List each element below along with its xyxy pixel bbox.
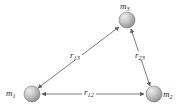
separation-label-r23-base: r bbox=[135, 50, 139, 60]
separation-label-r13-base: r bbox=[70, 50, 74, 60]
separation-label-r13: r13 bbox=[68, 51, 82, 60]
mass-label-m2-base: m bbox=[163, 89, 170, 99]
mass-sphere-m1 bbox=[24, 86, 40, 102]
mass-label-m3-base: m bbox=[120, 1, 127, 11]
mass-label-m2-sub: 2 bbox=[170, 93, 173, 100]
mass-label-m1: m1 bbox=[6, 89, 16, 98]
mass-sphere-m2 bbox=[146, 86, 162, 102]
mass-sphere-m3 bbox=[119, 12, 135, 28]
mass-label-m3-sub: 3 bbox=[127, 5, 130, 12]
separation-label-r12-base: r bbox=[84, 87, 88, 97]
mass-label-m1-base: m bbox=[6, 88, 13, 98]
mass-label-m2: m2 bbox=[163, 90, 173, 99]
separation-label-r23: r23 bbox=[133, 51, 147, 60]
mass-label-m1-sub: 1 bbox=[13, 92, 16, 99]
separation-label-r23-sub: 23 bbox=[139, 54, 145, 61]
mass-label-m3: m3 bbox=[120, 2, 130, 11]
three-body-diagram: m1 m2 m3 r12 r13 r23 bbox=[0, 0, 182, 109]
separation-label-r13-sub: 13 bbox=[74, 54, 80, 61]
separation-label-r12: r12 bbox=[82, 88, 96, 97]
separation-label-r12-sub: 12 bbox=[88, 91, 94, 98]
